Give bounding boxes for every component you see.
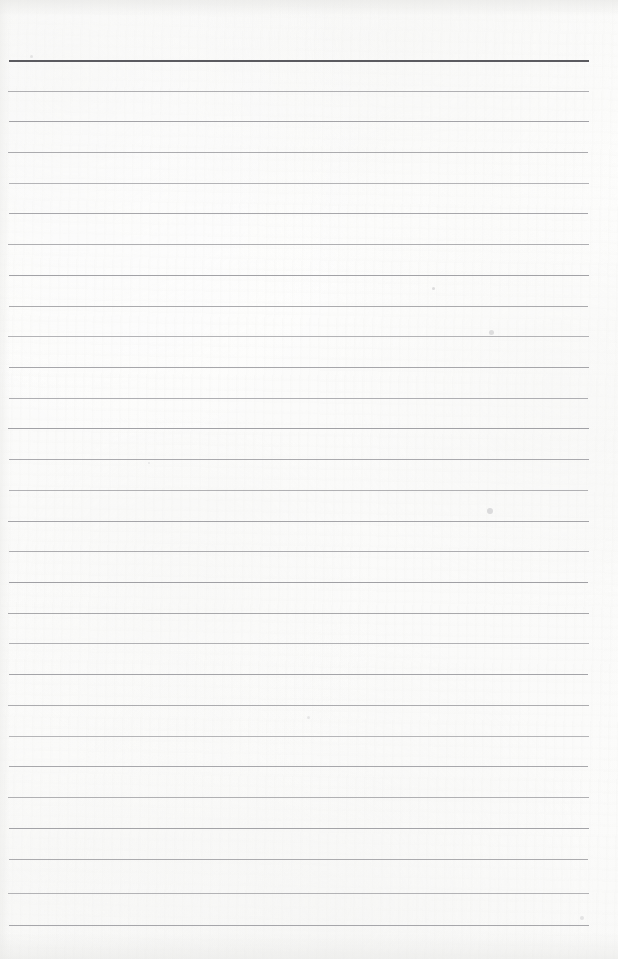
writing-area[interactable] (9, 60, 589, 926)
scanned-page (0, 0, 618, 959)
